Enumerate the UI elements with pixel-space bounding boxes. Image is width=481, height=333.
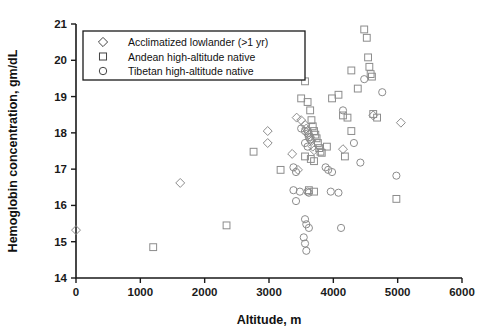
y-tick-label: 14: [54, 272, 67, 284]
data-point: [342, 153, 349, 160]
data-point: [393, 195, 400, 202]
data-point: [365, 54, 372, 61]
data-point: [396, 118, 405, 127]
data-point: [335, 189, 342, 196]
data-point: [339, 107, 346, 114]
y-tick-label: 21: [54, 18, 67, 30]
data-point: [335, 91, 342, 98]
data-point: [344, 114, 351, 121]
data-point: [292, 197, 299, 204]
y-axis-label: Hemoglobin concentration, gm/dL: [6, 49, 20, 252]
data-point: [296, 188, 303, 195]
data-point: [348, 128, 355, 135]
series-1: [72, 111, 406, 235]
y-tick-label: 18: [54, 127, 67, 139]
data-point: [303, 247, 310, 254]
y-tick-label: 19: [54, 91, 67, 103]
data-point: [307, 107, 314, 114]
data-point: [250, 148, 257, 155]
data-point: [277, 166, 284, 173]
chart-canvas: 0100020003000400050006000141516171819202…: [0, 0, 481, 333]
data-point: [298, 95, 305, 102]
y-tick-label: 20: [54, 54, 67, 66]
x-tick-label: 5000: [385, 286, 411, 298]
data-point: [223, 222, 230, 229]
data-point: [327, 188, 334, 195]
data-point: [363, 34, 370, 41]
data-point: [293, 165, 302, 174]
y-tick-label: 15: [54, 236, 67, 248]
data-point: [339, 145, 348, 154]
x-tick-label: 0: [73, 286, 79, 298]
data-point: [263, 139, 272, 148]
data-point: [361, 26, 368, 33]
data-point: [354, 85, 361, 92]
x-tick-label: 6000: [449, 286, 475, 298]
data-point: [379, 89, 386, 96]
data-point: [304, 99, 311, 106]
data-point: [348, 67, 355, 74]
data-point: [150, 244, 157, 251]
data-point: [366, 63, 373, 70]
legend-label: Acclimatized lowlander (>1 yr): [128, 36, 268, 48]
y-tick-label: 17: [54, 163, 67, 175]
data-point: [263, 127, 272, 136]
data-point: [337, 224, 344, 231]
series-3: [290, 76, 400, 255]
x-tick-label: 2000: [192, 286, 218, 298]
x-tick-label: 1000: [128, 286, 154, 298]
legend-label: Andean high-altitude native: [128, 51, 255, 63]
y-tick-label: 16: [54, 199, 67, 211]
data-point: [301, 216, 308, 223]
x-tick-label: 4000: [321, 286, 347, 298]
data-point: [288, 149, 297, 158]
data-point: [329, 95, 336, 102]
data-point: [176, 178, 185, 187]
data-point: [393, 172, 400, 179]
chart-legend: Acclimatized lowlander (>1 yr)Andean hig…: [83, 31, 305, 80]
x-axis-label: Altitude, m: [237, 313, 302, 327]
data-point: [357, 159, 364, 166]
legend-label: Tibetan high-altitude native: [128, 65, 254, 77]
x-tick-label: 3000: [256, 286, 282, 298]
data-point: [350, 139, 357, 146]
data-point: [361, 76, 368, 83]
scatter-plot-figure: 0100020003000400050006000141516171819202…: [0, 0, 481, 333]
